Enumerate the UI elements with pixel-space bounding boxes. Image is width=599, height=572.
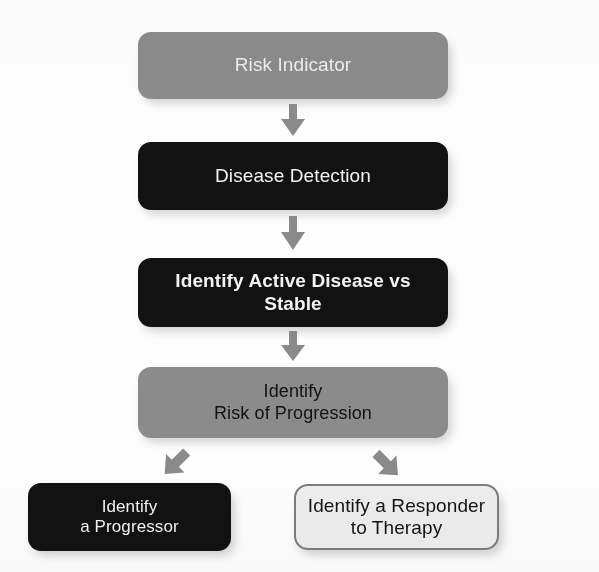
node-label: Identify a Progressor	[72, 497, 187, 537]
node-label-line: Stable	[264, 293, 322, 314]
node-label-line: a Progressor	[80, 517, 179, 536]
node-disease-detection[interactable]: Disease Detection	[138, 142, 448, 210]
node-identify-a-responder-to-therapy[interactable]: Identify a Responder to Therapy	[294, 484, 499, 550]
node-label-line: Identify	[102, 497, 158, 516]
node-label-line: Identify a Responder	[308, 495, 485, 516]
node-label-line: Identify Active Disease vs	[175, 270, 410, 291]
arrow-down-icon	[279, 104, 307, 138]
node-identify-a-progressor[interactable]: Identify a Progressor	[28, 483, 231, 551]
node-label: Identify Active Disease vs Stable	[167, 270, 418, 315]
arrow-down-icon	[279, 331, 307, 363]
node-identify-risk-of-progression[interactable]: Identify Risk of Progression	[138, 367, 448, 438]
node-label: Risk Indicator	[227, 54, 360, 76]
node-risk-indicator[interactable]: Risk Indicator	[138, 32, 448, 99]
arrow-down-right-icon	[370, 446, 406, 482]
node-label-line: to Therapy	[351, 517, 442, 538]
node-label: Identify a Responder to Therapy	[300, 495, 493, 540]
node-label-line: Risk of Progression	[214, 403, 372, 423]
node-identify-active-disease-vs-stable[interactable]: Identify Active Disease vs Stable	[138, 258, 448, 327]
flowchart-canvas: Risk Indicator Disease Detection Identif…	[0, 0, 599, 572]
arrow-down-icon	[279, 216, 307, 252]
node-label-line: Identify	[264, 381, 323, 401]
node-label: Disease Detection	[207, 165, 379, 187]
node-label: Identify Risk of Progression	[206, 381, 380, 423]
arrow-down-left-icon	[158, 446, 194, 482]
